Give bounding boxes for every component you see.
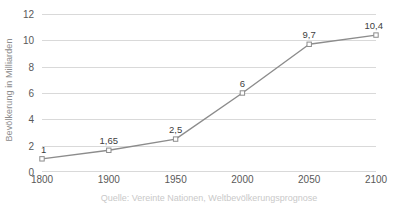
data-point-marker xyxy=(107,148,111,152)
data-point-marker xyxy=(307,42,311,46)
data-point-marker xyxy=(374,33,378,37)
x-tick-label: 2000 xyxy=(231,174,253,185)
y-tick-label: 2 xyxy=(28,140,34,151)
data-point-marker xyxy=(173,137,177,141)
population-line-chart: Bevölkerung in Milliarden 024681012 11,6… xyxy=(0,0,394,204)
y-tick-label: 8 xyxy=(28,61,34,72)
y-axis-tick-labels: 024681012 xyxy=(18,0,38,180)
plot-area: 11,652,569,710,4 xyxy=(42,14,376,172)
data-point-label: 1 xyxy=(41,144,46,155)
series-line xyxy=(42,35,376,159)
x-tick-label: 2050 xyxy=(298,174,320,185)
series-markers xyxy=(40,33,378,161)
x-tick-label: 2100 xyxy=(365,174,387,185)
x-tick-label: 1900 xyxy=(98,174,120,185)
x-axis-tick-labels: 180019001950200020502100 xyxy=(42,174,376,188)
bottom-caption: Quelle: Vereinte Nationen, Weltbevölkeru… xyxy=(42,193,376,204)
series-layer xyxy=(42,14,376,172)
x-tick-label: 1800 xyxy=(31,174,53,185)
data-point-label: 10,4 xyxy=(365,20,384,31)
y-tick-label: 4 xyxy=(28,114,34,125)
data-point-label: 9,7 xyxy=(303,29,316,40)
data-point-label: 2,5 xyxy=(169,124,182,135)
y-tick-label: 6 xyxy=(28,88,34,99)
data-point-marker xyxy=(240,91,244,95)
data-point-label: 6 xyxy=(240,78,245,89)
bottom-caption-text: Quelle: Vereinte Nationen, Weltbevölkeru… xyxy=(42,193,376,204)
y-axis-title-label: Bevölkerung in Milliarden xyxy=(4,38,14,141)
data-point-marker xyxy=(40,157,44,161)
data-point-label: 1,65 xyxy=(100,135,119,146)
y-tick-label: 10 xyxy=(23,35,34,46)
y-axis-title: Bevölkerung in Milliarden xyxy=(0,0,18,180)
y-tick-label: 12 xyxy=(23,9,34,20)
x-tick-label: 1950 xyxy=(164,174,186,185)
